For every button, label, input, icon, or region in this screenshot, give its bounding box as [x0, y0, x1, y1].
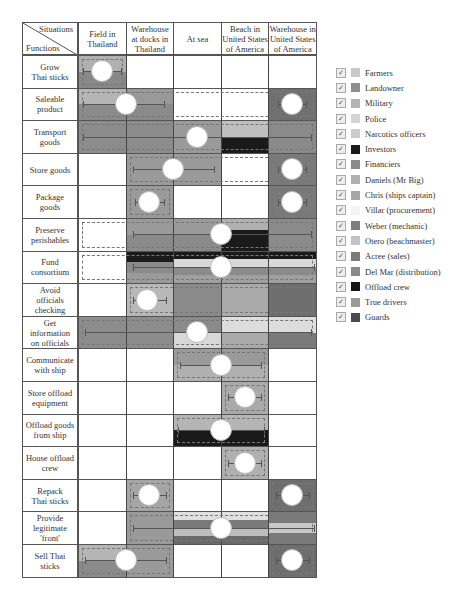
legend-label: Narcotics officers: [365, 129, 426, 139]
checkbox-icon[interactable]: ✓: [336, 144, 346, 154]
checkbox-icon[interactable]: ✓: [336, 190, 346, 200]
checkbox-icon[interactable]: ✓: [336, 159, 346, 169]
checkbox-icon[interactable]: ✓: [336, 251, 346, 261]
checkbox-icon[interactable]: ✓: [336, 68, 346, 78]
function-label: Store goods: [22, 153, 78, 187]
checkbox-icon[interactable]: ✓: [336, 205, 346, 215]
legend-item[interactable]: ✓Financiers: [336, 157, 441, 172]
legend-label: Weber (mechanic): [365, 221, 427, 231]
performance-marker[interactable]: [210, 256, 232, 278]
column-divider: [268, 414, 269, 447]
range-tick-start: [133, 264, 134, 271]
color-swatch: [351, 206, 360, 215]
range-tick-end: [214, 166, 215, 173]
checkbox-icon[interactable]: ✓: [336, 114, 346, 124]
legend-item[interactable]: ✓Investors: [336, 141, 441, 156]
performance-marker[interactable]: [234, 386, 256, 408]
checkbox-icon[interactable]: ✓: [336, 98, 346, 108]
performance-marker[interactable]: [210, 354, 232, 376]
legend-item[interactable]: ✓Acree (sales): [336, 249, 441, 264]
checkbox-icon[interactable]: ✓: [336, 221, 346, 231]
column-divider: [221, 381, 222, 414]
matrix-cell: [268, 414, 317, 448]
column-divider: [268, 283, 269, 316]
column-divider: [221, 283, 222, 316]
checkbox-icon[interactable]: ✓: [336, 83, 346, 93]
checkbox-icon[interactable]: ✓: [336, 312, 346, 322]
matrix-cell: [173, 479, 222, 513]
legend-item[interactable]: ✓Landowner: [336, 80, 441, 95]
legend-item[interactable]: ✓Villar (procurement): [336, 203, 441, 218]
legend-item[interactable]: ✓Otero (beachmaster): [336, 233, 441, 248]
performance-marker[interactable]: [186, 321, 208, 343]
matrix-cell: [126, 348, 175, 382]
range-tick-start: [133, 492, 134, 499]
column-divider: [268, 55, 269, 88]
range-tick-end: [264, 427, 265, 434]
checkbox-icon[interactable]: ✓: [336, 267, 346, 277]
matrix-cell: [173, 544, 222, 578]
function-label: Packagegoods: [22, 185, 78, 219]
actor-stripe: [174, 267, 316, 275]
legend-item[interactable]: ✓Police: [336, 111, 441, 126]
column-divider: [221, 153, 222, 186]
color-swatch: [351, 221, 360, 230]
legend-label: Financiers: [365, 159, 400, 169]
column-divider: [173, 348, 174, 381]
legend-item[interactable]: ✓Military: [336, 96, 441, 111]
performance-marker[interactable]: [210, 223, 232, 245]
range-tick-end: [311, 134, 312, 141]
legend-item[interactable]: ✓True drivers: [336, 294, 441, 309]
performance-marker[interactable]: [186, 126, 208, 148]
matrix-cell: [126, 381, 175, 415]
performance-marker[interactable]: [210, 517, 232, 539]
legend-item[interactable]: ✓Weber (mechanic): [336, 218, 441, 233]
range-tick-end: [166, 557, 167, 564]
legend-item[interactable]: ✓Guards: [336, 310, 441, 325]
performance-marker[interactable]: [138, 191, 160, 213]
performance-marker[interactable]: [136, 289, 158, 311]
column-divider: [268, 185, 269, 218]
legend-label: Chris (ships captain): [365, 190, 435, 200]
performance-marker[interactable]: [91, 60, 113, 82]
column-divider: [173, 283, 174, 316]
performance-marker[interactable]: [281, 191, 303, 213]
column-divider: [173, 55, 174, 88]
range-tick-start: [228, 460, 229, 467]
actor-band: [174, 284, 221, 316]
legend-label: Guards: [365, 312, 390, 322]
matrix-cell: [78, 251, 127, 285]
actor-stripe: [127, 252, 174, 263]
functions-label: Functions: [26, 43, 60, 53]
function-label: Providelegitimate'front': [22, 511, 78, 545]
checkbox-icon[interactable]: ✓: [336, 236, 346, 246]
color-swatch: [351, 267, 360, 276]
legend-item[interactable]: ✓Farmers: [336, 65, 441, 80]
checkbox-icon[interactable]: ✓: [336, 282, 346, 292]
performance-marker[interactable]: [115, 93, 137, 115]
performance-marker[interactable]: [115, 549, 137, 571]
function-label: Offload goodsfrom ship: [22, 414, 78, 448]
range-tick-end: [166, 492, 167, 499]
actor-stripe: [222, 284, 269, 316]
legend-label: True drivers: [365, 297, 406, 307]
legend-item[interactable]: ✓Narcotics officers: [336, 126, 441, 141]
column-header: Warehouse inUnited Statesof America: [268, 22, 317, 55]
actor-band: [222, 284, 269, 316]
performance-marker[interactable]: [234, 452, 256, 474]
range-tick-end: [314, 525, 315, 532]
checkbox-icon[interactable]: ✓: [336, 297, 346, 307]
performance-marker[interactable]: [210, 419, 232, 441]
range-tick-end: [121, 68, 122, 75]
legend-item[interactable]: ✓Del Mar (distribution): [336, 264, 441, 279]
checkbox-icon[interactable]: ✓: [336, 129, 346, 139]
legend-item[interactable]: ✓Offload crew: [336, 279, 441, 294]
performance-marker[interactable]: [281, 93, 303, 115]
legend-item[interactable]: ✓Daniels (Mr Big): [336, 172, 441, 187]
checkbox-icon[interactable]: ✓: [336, 175, 346, 185]
color-swatch: [351, 236, 360, 245]
legend-item[interactable]: ✓Chris (ships captain): [336, 187, 441, 202]
matrix-cell: [268, 348, 317, 382]
matrix-cell: [78, 153, 127, 187]
matrix-cell: [126, 414, 175, 448]
